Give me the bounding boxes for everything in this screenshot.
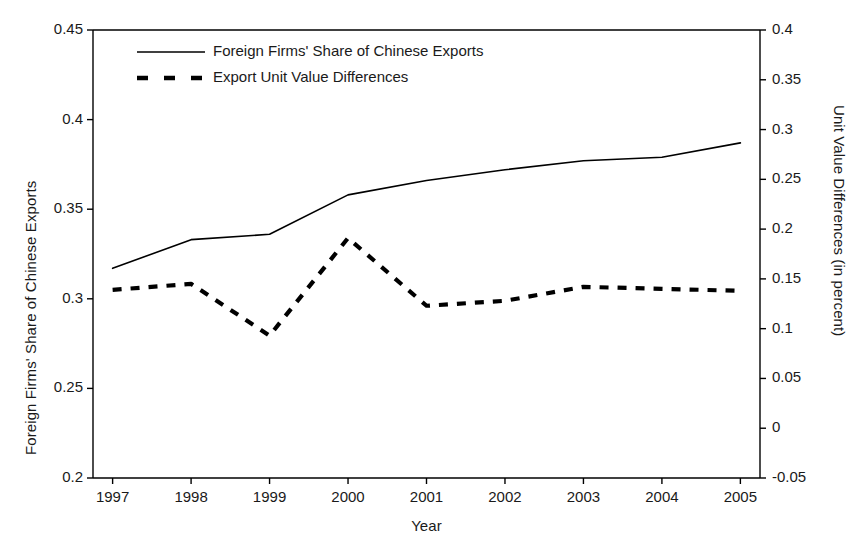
series-line-2 <box>113 238 741 336</box>
x-tick-label: 2000 <box>313 488 383 505</box>
y-tick-label-right: 0.15 <box>772 269 801 286</box>
legend-sample-lines <box>137 52 205 78</box>
chart-figure: Foreign Firms' Share of Chinese Exports … <box>0 0 867 554</box>
y-tick-label-right: 0.1 <box>772 319 793 336</box>
y-tick-label-right: 0.3 <box>772 120 793 137</box>
y-tick-label-left: 0.25 <box>20 378 83 395</box>
y-tick-label-left: 0.2 <box>20 468 83 485</box>
y-axis-left-title: Foreign Firms' Share of Chinese Exports <box>22 181 39 455</box>
y-tick-label-right: 0.4 <box>772 20 793 37</box>
y-tick-label-left: 0.3 <box>20 289 83 306</box>
y-tick-label-right: -0.05 <box>772 468 806 485</box>
y-tick-label-right: 0.05 <box>772 368 801 385</box>
x-tick-label: 2003 <box>548 488 618 505</box>
y-tick-label-left: 0.4 <box>20 110 83 127</box>
x-tick-label: 1998 <box>156 488 226 505</box>
legend-label-1: Foreign Firms' Share of Chinese Exports <box>213 42 483 59</box>
legend-label-2: Export Unit Value Differences <box>213 68 408 85</box>
tick-marks <box>87 30 766 484</box>
y-axis-right-title: Unit Value Differences (in percent) <box>831 105 848 336</box>
x-axis-title: Year <box>327 517 527 534</box>
y-tick-label-left: 0.35 <box>20 199 83 216</box>
y-tick-label-right: 0 <box>772 418 780 435</box>
x-tick-label: 2002 <box>470 488 540 505</box>
y-tick-label-right: 0.25 <box>772 169 801 186</box>
axis-frame <box>93 30 760 478</box>
x-tick-label: 1999 <box>235 488 305 505</box>
x-tick-label: 2001 <box>392 488 462 505</box>
x-tick-label: 2005 <box>705 488 775 505</box>
plot-canvas <box>0 0 867 554</box>
series-line-1 <box>113 143 741 268</box>
y-tick-label-left: 0.45 <box>20 20 83 37</box>
y-tick-label-right: 0.35 <box>772 70 801 87</box>
x-tick-label: 2004 <box>627 488 697 505</box>
series-layer <box>113 143 741 336</box>
y-tick-label-right: 0.2 <box>772 219 793 236</box>
x-tick-label: 1997 <box>78 488 148 505</box>
